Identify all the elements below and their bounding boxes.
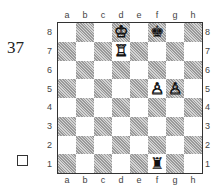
file-label: f — [148, 175, 166, 185]
square-b5 — [76, 79, 94, 98]
rank-label: 3 — [47, 121, 52, 131]
square-d1 — [112, 154, 130, 173]
square-g1 — [166, 154, 184, 173]
square-e3 — [130, 117, 148, 136]
square-d5 — [112, 79, 130, 98]
white-pawn-icon: ♙ — [150, 81, 164, 97]
file-label: g — [166, 175, 184, 185]
file-label: c — [94, 175, 112, 185]
square-c7 — [94, 42, 112, 61]
file-label: e — [130, 10, 148, 20]
square-f4 — [148, 98, 166, 117]
square-h4 — [184, 98, 202, 117]
square-c6 — [94, 61, 112, 80]
square-b7 — [76, 42, 94, 61]
square-a3 — [58, 117, 76, 136]
square-b4 — [76, 98, 94, 117]
square-h2 — [184, 136, 202, 155]
file-labels-bottom: a b c d e f g h — [58, 175, 202, 185]
rank-label: 4 — [47, 102, 52, 112]
square-d4 — [112, 98, 130, 117]
white-pawn-icon: ♙ — [168, 81, 182, 97]
square-e8 — [130, 23, 148, 42]
square-c4 — [94, 98, 112, 117]
rank-label: 8 — [47, 27, 52, 37]
square-e5 — [130, 79, 148, 98]
file-label: d — [112, 175, 130, 185]
square-a7 — [58, 42, 76, 61]
square-d2 — [112, 136, 130, 155]
square-d3 — [112, 117, 130, 136]
file-label: a — [58, 10, 76, 20]
square-f1: ♜ — [148, 154, 166, 173]
rank-label: 2 — [205, 140, 210, 150]
square-h8 — [184, 23, 202, 42]
file-label: e — [130, 175, 148, 185]
rank-labels-left: 8 7 6 5 4 3 2 1 — [47, 23, 52, 173]
square-a5 — [58, 79, 76, 98]
square-g4 — [166, 98, 184, 117]
square-a1 — [58, 154, 76, 173]
rank-label: 6 — [47, 65, 52, 75]
square-c3 — [94, 117, 112, 136]
square-h5 — [184, 79, 202, 98]
square-f5: ♙ — [148, 79, 166, 98]
black-king-icon: ♚ — [150, 24, 164, 40]
square-g3 — [166, 117, 184, 136]
square-b8 — [76, 23, 94, 42]
square-b1 — [76, 154, 94, 173]
square-c2 — [94, 136, 112, 155]
square-a4 — [58, 98, 76, 117]
square-h3 — [184, 117, 202, 136]
rank-label: 1 — [47, 159, 52, 169]
square-g7 — [166, 42, 184, 61]
square-g6 — [166, 61, 184, 80]
white-to-move-indicator — [17, 155, 28, 166]
rank-label: 1 — [205, 159, 210, 169]
square-e1 — [130, 154, 148, 173]
rank-label: 2 — [47, 140, 52, 150]
square-b2 — [76, 136, 94, 155]
file-label: h — [184, 175, 202, 185]
square-b3 — [76, 117, 94, 136]
square-g2 — [166, 136, 184, 155]
rank-label: 3 — [205, 121, 210, 131]
square-f2 — [148, 136, 166, 155]
square-a2 — [58, 136, 76, 155]
square-h6 — [184, 61, 202, 80]
file-label: b — [76, 175, 94, 185]
file-label: c — [94, 10, 112, 20]
file-label: a — [58, 175, 76, 185]
square-e6 — [130, 61, 148, 80]
square-d7: ♖ — [112, 42, 130, 61]
file-label: f — [148, 10, 166, 20]
square-f3 — [148, 117, 166, 136]
rank-label: 4 — [205, 102, 210, 112]
rank-labels-right: 8 7 6 5 4 3 2 1 — [205, 23, 210, 173]
rank-label: 5 — [205, 84, 210, 94]
square-e4 — [130, 98, 148, 117]
rank-label: 7 — [205, 46, 210, 56]
square-c5 — [94, 79, 112, 98]
file-label: d — [112, 10, 130, 20]
square-b6 — [76, 61, 94, 80]
square-c1 — [94, 154, 112, 173]
square-d8: ♔ — [112, 23, 130, 42]
square-g8 — [166, 23, 184, 42]
chess-board: ♔♚♖♙♙♜ — [57, 22, 203, 174]
white-rook-icon: ♖ — [114, 43, 128, 59]
square-h7 — [184, 42, 202, 61]
rank-label: 7 — [47, 46, 52, 56]
square-h1 — [184, 154, 202, 173]
square-f8: ♚ — [148, 23, 166, 42]
file-label: h — [184, 10, 202, 20]
rank-label: 8 — [205, 27, 210, 37]
square-e7 — [130, 42, 148, 61]
file-label: g — [166, 10, 184, 20]
square-g5: ♙ — [166, 79, 184, 98]
square-a6 — [58, 61, 76, 80]
square-f6 — [148, 61, 166, 80]
rank-label: 6 — [205, 65, 210, 75]
black-rook-icon: ♜ — [150, 156, 164, 172]
rank-label: 5 — [47, 84, 52, 94]
